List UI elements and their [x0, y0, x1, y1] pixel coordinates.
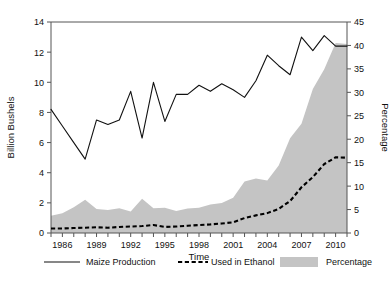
y2-axis-tick-label: 35: [354, 64, 364, 74]
y2-axis-tick-label: 0: [354, 228, 359, 238]
x-axis-tick-label: 2001: [223, 240, 243, 250]
y2-axis-tick-label: 20: [354, 135, 364, 145]
percentage-area-series: [51, 43, 347, 233]
x-axis-tick-label: 1995: [155, 240, 175, 250]
y2-axis-tick-label: 5: [354, 205, 359, 215]
legend-label-maize-production: Maize Production: [86, 257, 156, 267]
x-axis-tick-label: 1998: [189, 240, 209, 250]
y2-axis-tick-label: 45: [354, 17, 364, 27]
y2-axis-tick-label: 10: [354, 182, 364, 192]
legend-marker-percentage: [280, 257, 318, 267]
y2-axis-tick-label: 40: [354, 41, 364, 51]
y-axis-tick-label: 0: [39, 228, 44, 238]
y2-axis-tick-label: 25: [354, 111, 364, 121]
x-axis-tick-label: 2004: [257, 240, 277, 250]
y2-axis-tick-label: 15: [354, 158, 364, 168]
y2-axis-title: Percentage: [380, 103, 391, 152]
x-axis-title: Time: [189, 251, 210, 262]
x-axis-tick-label: 2010: [326, 240, 346, 250]
y-axis-tick-label: 12: [34, 48, 44, 58]
y-axis-tick-label: 10: [34, 78, 44, 88]
y-axis-tick-label: 2: [39, 198, 44, 208]
legend-label-used-in-ethanol: Used in Ethanol: [211, 257, 275, 267]
chart-svg: 0246810121405101520253035404519861989199…: [0, 0, 392, 288]
x-axis-tick-label: 1992: [121, 240, 141, 250]
y-axis-tick-label: 8: [39, 108, 44, 118]
x-axis-tick-label: 1986: [52, 240, 72, 250]
x-axis-tick-label: 1989: [87, 240, 107, 250]
legend-label-percentage: Percentage: [326, 257, 372, 267]
chart-container: 0246810121405101520253035404519861989199…: [0, 0, 392, 288]
percentage-area: [51, 43, 347, 233]
y2-axis-tick-label: 30: [354, 88, 364, 98]
y-axis-tick-label: 6: [39, 138, 44, 148]
y-axis-tick-label: 14: [34, 17, 44, 27]
y-axis-tick-label: 4: [39, 168, 44, 178]
x-axis-tick-label: 2007: [291, 240, 311, 250]
y-axis-title: Billion Bushels: [5, 96, 16, 158]
